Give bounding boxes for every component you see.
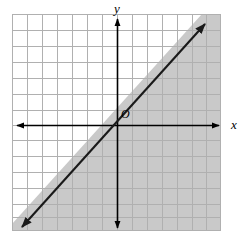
x-axis-label: x [231, 118, 237, 131]
coordinate-plane-figure: y x O [0, 0, 243, 247]
origin-label: O [121, 108, 130, 120]
y-axis-label: y [114, 2, 120, 15]
graph-canvas [0, 0, 243, 247]
